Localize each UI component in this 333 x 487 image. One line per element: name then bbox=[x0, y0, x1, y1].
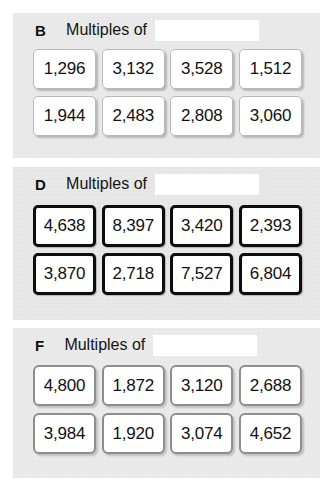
card-row: 1,944 2,483 2,808 3,060 bbox=[33, 96, 302, 136]
number-card[interactable]: 3,132 bbox=[102, 49, 165, 89]
number-card[interactable]: 6,804 bbox=[239, 253, 302, 295]
number-card[interactable]: 4,638 bbox=[33, 205, 96, 247]
number-card[interactable]: 3,120 bbox=[170, 365, 233, 406]
number-card[interactable]: 3,528 bbox=[170, 49, 233, 89]
number-card-grid-f: 4,800 1,872 3,120 2,688 3,984 1,920 3,07… bbox=[33, 365, 302, 461]
section-letter-b: B bbox=[35, 22, 46, 39]
number-card[interactable]: 1,512 bbox=[239, 49, 302, 89]
answer-blank-b[interactable] bbox=[155, 20, 259, 41]
section-panel-d: D Multiples of 4,638 8,397 3,420 2,393 3… bbox=[13, 167, 320, 320]
section-header-b: B Multiples of bbox=[13, 13, 320, 47]
number-card[interactable]: 7,527 bbox=[170, 253, 233, 295]
number-card[interactable]: 1,296 bbox=[33, 49, 96, 89]
card-row: 4,800 1,872 3,120 2,688 bbox=[33, 365, 302, 406]
worksheet: B Multiples of 1,296 3,132 3,528 1,512 1… bbox=[0, 0, 333, 487]
number-card[interactable]: 2,688 bbox=[239, 365, 302, 406]
number-card[interactable]: 4,800 bbox=[33, 365, 96, 406]
number-card[interactable]: 8,397 bbox=[102, 205, 165, 247]
number-card[interactable]: 3,870 bbox=[33, 253, 96, 295]
card-row: 1,296 3,132 3,528 1,512 bbox=[33, 49, 302, 89]
number-card[interactable]: 2,808 bbox=[170, 96, 233, 136]
card-row: 3,984 1,920 3,074 4,652 bbox=[33, 413, 302, 454]
section-title-d: Multiples of bbox=[66, 175, 147, 193]
number-card-grid-b: 1,296 3,132 3,528 1,512 1,944 2,483 2,80… bbox=[33, 49, 302, 143]
section-header-f: F Multiples of bbox=[13, 328, 320, 362]
number-card[interactable]: 2,483 bbox=[102, 96, 165, 136]
section-letter-d: D bbox=[35, 176, 46, 193]
section-title-f: Multiples of bbox=[64, 336, 145, 354]
section-panel-f: F Multiples of 4,800 1,872 3,120 2,688 3… bbox=[13, 328, 320, 478]
number-card[interactable]: 4,652 bbox=[239, 413, 302, 454]
answer-blank-d[interactable] bbox=[155, 174, 259, 195]
number-card[interactable]: 3,060 bbox=[239, 96, 302, 136]
number-card[interactable]: 2,718 bbox=[102, 253, 165, 295]
number-card[interactable]: 1,920 bbox=[102, 413, 165, 454]
number-card[interactable]: 1,944 bbox=[33, 96, 96, 136]
number-card[interactable]: 1,872 bbox=[102, 365, 165, 406]
section-letter-f: F bbox=[35, 337, 44, 354]
section-header-d: D Multiples of bbox=[13, 167, 320, 201]
section-panel-b: B Multiples of 1,296 3,132 3,528 1,512 1… bbox=[13, 13, 320, 158]
section-title-b: Multiples of bbox=[66, 21, 147, 39]
number-card[interactable]: 3,984 bbox=[33, 413, 96, 454]
number-card-grid-d: 4,638 8,397 3,420 2,393 3,870 2,718 7,52… bbox=[33, 205, 302, 301]
number-card[interactable]: 3,074 bbox=[170, 413, 233, 454]
number-card[interactable]: 3,420 bbox=[170, 205, 233, 247]
number-card[interactable]: 2,393 bbox=[239, 205, 302, 247]
answer-blank-f[interactable] bbox=[153, 335, 257, 356]
card-row: 3,870 2,718 7,527 6,804 bbox=[33, 253, 302, 295]
card-row: 4,638 8,397 3,420 2,393 bbox=[33, 205, 302, 247]
